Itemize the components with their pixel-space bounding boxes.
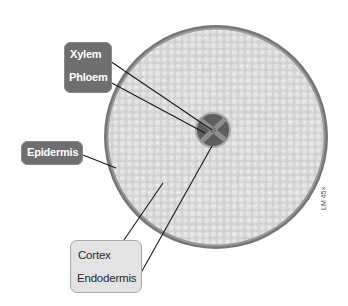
root-cross-section-diagram: Xylem Phloem Epidermis Cortex Endodermis…	[0, 0, 348, 306]
magnification-note: LM 45×	[320, 186, 327, 210]
vascular-label-box: Xylem Phloem	[64, 42, 112, 93]
epidermis-label: Epidermis	[27, 146, 78, 158]
endodermis-label: Endodermis	[77, 272, 136, 284]
epidermis-label-box: Epidermis	[21, 141, 83, 165]
ground-tissue-label-box: Cortex Endodermis	[70, 240, 142, 293]
phloem-label: Phloem	[69, 71, 108, 83]
xylem-label: Xylem	[70, 48, 101, 60]
cortex-label: Cortex	[78, 249, 111, 261]
